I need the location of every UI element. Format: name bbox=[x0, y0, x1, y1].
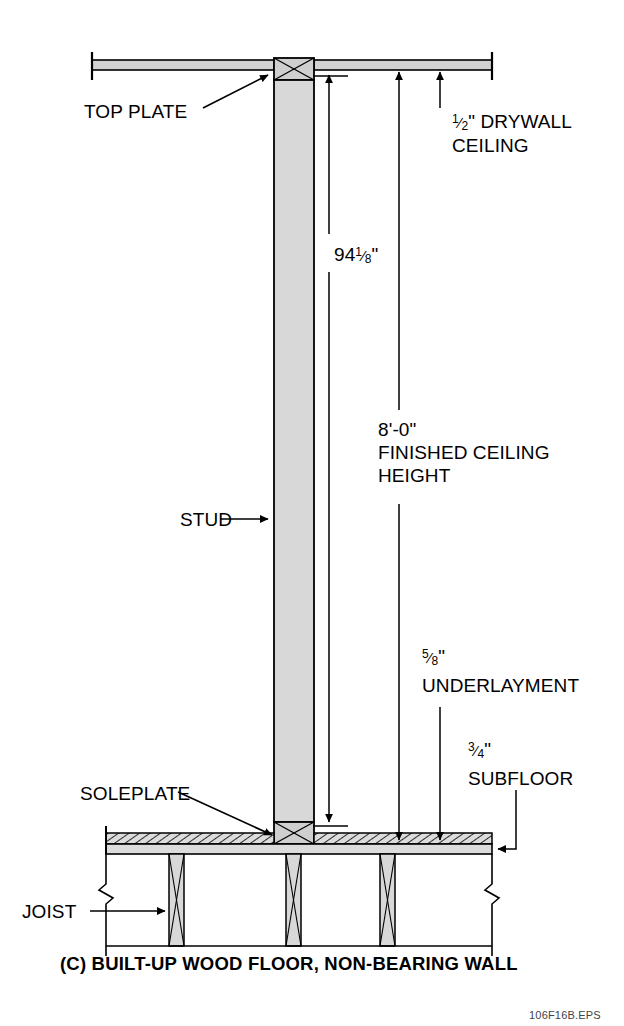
fraction-denominator: 4 bbox=[477, 747, 484, 761]
dimension-subfloor bbox=[498, 790, 516, 849]
dimension-text-subfloor-label: SUBFLOOR bbox=[468, 767, 573, 790]
fraction-denominator: 8 bbox=[431, 654, 438, 668]
dimension-stud-height bbox=[313, 75, 348, 826]
figure-caption: (C) BUILT-UP WOOD FLOOR, NON-BEARING WAL… bbox=[60, 952, 518, 975]
drywall-fraction: 1⁄2 bbox=[452, 110, 468, 136]
dimension-text-stud-height: 941⁄8" bbox=[334, 243, 378, 269]
underlayment-fraction: 5⁄8 bbox=[422, 645, 438, 671]
underlayment-layer-right bbox=[314, 833, 492, 844]
label-stud: STUD bbox=[180, 508, 232, 531]
soleplate-block bbox=[274, 822, 314, 844]
dimension-text-underlayment-size: 5⁄8" bbox=[422, 645, 445, 671]
joist-group bbox=[106, 854, 492, 946]
dimension-text-underlayment-label: UNDERLAYMENT bbox=[422, 674, 579, 697]
joist-1 bbox=[169, 854, 184, 946]
stud-height-unit: " bbox=[372, 244, 379, 265]
label-soleplate: SOLEPLATE bbox=[80, 782, 190, 805]
joist-3 bbox=[380, 854, 395, 946]
dimension-text-drywall-size: 1⁄2" DRYWALL bbox=[452, 110, 572, 136]
drywall-line1: DRYWALL bbox=[480, 111, 572, 132]
dimension-text-drywall-line2: CEILING bbox=[452, 134, 529, 157]
drywall-unit: " bbox=[468, 111, 475, 132]
leader-top-plate bbox=[203, 75, 268, 108]
top-plate-block bbox=[274, 58, 314, 80]
leader-soleplate bbox=[178, 792, 272, 835]
figure-page: TOP PLATE STUD SOLEPLATE JOIST 941⁄8" 8'… bbox=[0, 0, 624, 1026]
fraction-numerator: 1 bbox=[452, 112, 459, 126]
dimension-text-subfloor-size: 3⁄4" bbox=[468, 738, 491, 764]
fraction-numerator: 3 bbox=[468, 740, 475, 754]
drywall-ceiling-left bbox=[92, 60, 274, 70]
drywall-ceiling-right bbox=[314, 60, 492, 70]
label-joist: JOIST bbox=[22, 900, 76, 923]
file-code-label: 106F16B.EPS bbox=[529, 1004, 601, 1026]
stud-member bbox=[274, 80, 314, 822]
dimension-text-ceiling-height-value: 8'-0" bbox=[378, 418, 416, 441]
subfloor-unit: " bbox=[484, 739, 491, 760]
fraction-denominator: 2 bbox=[461, 119, 468, 133]
underlayment-unit: " bbox=[438, 646, 445, 667]
fraction-numerator: 5 bbox=[422, 647, 429, 661]
joist-2 bbox=[286, 854, 301, 946]
break-line-left bbox=[99, 854, 113, 946]
stud-height-fraction: 1⁄8 bbox=[355, 243, 371, 269]
dimension-text-ceiling-height-line2: HEIGHT bbox=[378, 464, 450, 487]
fraction-denominator: 8 bbox=[365, 252, 372, 266]
label-top-plate: TOP PLATE bbox=[84, 100, 187, 123]
underlayment-layer-left bbox=[106, 833, 274, 844]
subfloor-layer bbox=[106, 844, 492, 854]
break-line-right bbox=[485, 854, 499, 946]
section-drawing bbox=[0, 0, 624, 1026]
subfloor-fraction: 3⁄4 bbox=[468, 738, 484, 764]
dimension-text-ceiling-height-line1: FINISHED CEILING bbox=[378, 441, 550, 464]
stud-height-whole: 94 bbox=[334, 244, 355, 265]
